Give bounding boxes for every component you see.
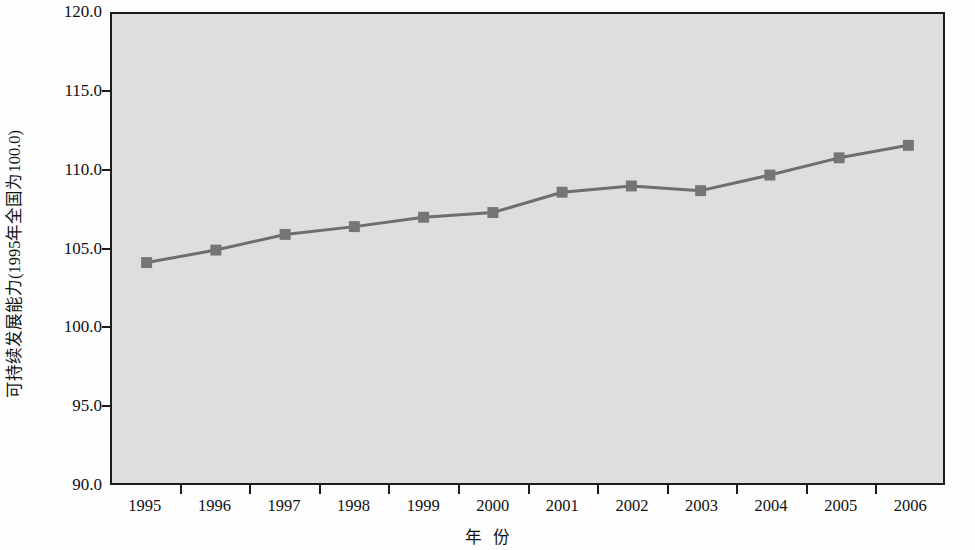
x-axis-title: 年份 (0, 524, 975, 548)
x-axis-tick-label: 1997 (244, 496, 324, 516)
y-axis-tick-label: 90.0 (26, 475, 102, 495)
x-axis-tick-label: 2003 (661, 496, 741, 516)
x-axis-tick-label: 2001 (522, 496, 602, 516)
data-point-marker (764, 170, 775, 181)
data-point-marker (834, 152, 845, 163)
x-axis-tick-mark (597, 485, 599, 494)
data-point-marker (280, 229, 291, 240)
x-axis-tick-label: 1995 (105, 496, 185, 516)
data-point-marker (141, 257, 152, 268)
y-axis-tick-label: 105.0 (26, 239, 102, 259)
x-axis-title-part-2: 份 (493, 528, 510, 547)
y-axis-tick-label: 100.0 (26, 317, 102, 337)
x-axis-tick-mark (180, 485, 182, 494)
data-point-marker (210, 245, 221, 256)
y-axis-tick-label: 120.0 (26, 2, 102, 22)
x-axis-tick-mark (388, 485, 390, 494)
x-axis-tick-mark (806, 485, 808, 494)
y-axis-tick-label: 95.0 (26, 396, 102, 416)
x-axis-tick-label: 2006 (870, 496, 950, 516)
data-line (147, 145, 909, 262)
data-point-marker (626, 181, 637, 192)
data-point-marker (349, 221, 360, 232)
chart-figure: 可持续发展能力(1995年全国为100.0) 120.0115.0110.010… (0, 0, 975, 550)
x-axis-tick-mark (875, 485, 877, 494)
data-point-marker (903, 140, 914, 151)
line-series-svg (112, 14, 943, 483)
x-axis-tick-label: 1999 (383, 496, 463, 516)
x-axis-tick-mark (319, 485, 321, 494)
x-axis-tick-mark (458, 485, 460, 494)
data-point-marker (695, 185, 706, 196)
x-axis-tick-label: 2004 (731, 496, 811, 516)
x-axis-tick-label: 2005 (801, 496, 881, 516)
data-point-marker (487, 207, 498, 218)
y-axis-tick-labels: 120.0115.0110.0105.0100.095.090.0 (20, 0, 102, 550)
x-axis-tick-label: 2002 (592, 496, 672, 516)
x-axis-tick-mark (736, 485, 738, 494)
x-axis-tick-mark (528, 485, 530, 494)
x-axis-title-part-1: 年 (465, 528, 482, 547)
y-axis-tick-label: 110.0 (26, 160, 102, 180)
y-axis-tick-label: 115.0 (26, 81, 102, 101)
x-axis-tick-label: 1996 (174, 496, 254, 516)
plot-area (110, 12, 945, 485)
data-point-marker (418, 212, 429, 223)
x-axis-tick-mark (249, 485, 251, 494)
x-axis-tick-label: 2000 (453, 496, 533, 516)
x-axis-tick-label: 1998 (314, 496, 394, 516)
x-axis-tick-mark (667, 485, 669, 494)
data-point-marker (557, 187, 568, 198)
